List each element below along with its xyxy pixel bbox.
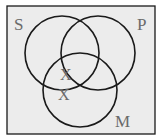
label-s: S [14, 15, 23, 34]
label-p: P [137, 15, 146, 34]
label-m: M [115, 112, 130, 131]
venn-diagram: S P M X X [0, 0, 164, 139]
mark-x-1: X [60, 66, 72, 83]
mark-x-2: X [58, 86, 70, 103]
